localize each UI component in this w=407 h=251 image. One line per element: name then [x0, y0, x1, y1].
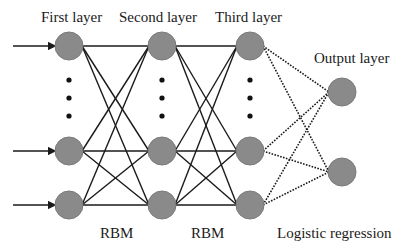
ellipsis-dot-icon: [159, 113, 164, 118]
neuron-node: [328, 158, 356, 186]
ellipsis-dot-icon: [159, 95, 164, 100]
input-arrows: [13, 46, 55, 205]
ellipsis-dot-icon: [66, 77, 71, 82]
output-layer-label: Output layer: [314, 50, 389, 67]
dbn-diagram: [0, 0, 407, 251]
ellipsis-dot-icon: [247, 113, 252, 118]
ellipsis-dot-icon: [247, 95, 252, 100]
neuron-node: [236, 191, 264, 219]
neuron-node: [236, 32, 264, 60]
first-layer-label: First layer: [41, 9, 102, 26]
neuron-node: [328, 78, 356, 106]
ellipsis-dots: [66, 77, 252, 118]
neuron-node: [55, 32, 83, 60]
neuron-node: [55, 137, 83, 165]
ellipsis-dot-icon: [66, 95, 71, 100]
second-layer-label: Second layer: [119, 9, 197, 26]
connection-edges: [82, 46, 329, 205]
edge: [263, 92, 329, 151]
neuron-node: [148, 137, 176, 165]
neuron-node: [148, 32, 176, 60]
ellipsis-dot-icon: [66, 113, 71, 118]
ellipsis-dot-icon: [159, 77, 164, 82]
third-layer-label: Third layer: [215, 9, 282, 26]
neuron-node: [236, 137, 264, 165]
neuron-node: [148, 191, 176, 219]
neuron-node: [55, 191, 83, 219]
logistic-regression-label: Logistic regression: [277, 225, 392, 242]
edge: [263, 151, 329, 172]
rbm-label-1: RBM: [100, 225, 133, 242]
rbm-label-2: RBM: [191, 225, 224, 242]
ellipsis-dot-icon: [247, 77, 252, 82]
